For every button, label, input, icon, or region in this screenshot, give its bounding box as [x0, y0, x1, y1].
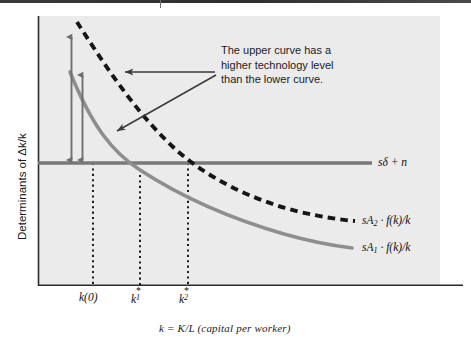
k2-star-sub-stack: *2: [184, 291, 189, 303]
sA1-prefix: sA: [362, 241, 374, 253]
x-tick-label-k1-star: k*1: [131, 291, 141, 306]
annotation-line-3: than the lower curve.: [221, 72, 334, 87]
annotation-line-2: higher technology level: [221, 58, 334, 73]
k1-sub-glyph: 1: [136, 293, 140, 302]
annotation-line-1: The upper curve has a: [221, 43, 334, 58]
x-axis-title: k = K/L (capital per worker): [159, 322, 291, 335]
k2-sub-glyph: 2: [184, 293, 188, 302]
curve-label-sA2: sA2 · f(k)/k: [362, 214, 410, 228]
x-tick-label-k0: k(0): [79, 291, 98, 305]
k1-star-sub-stack: *1: [136, 291, 141, 303]
solow-growth-figure: Determinants of Δk/k k = K/L (capital pe…: [0, 0, 471, 346]
curve-label-sA1: sA1 · f(k)/k: [362, 241, 410, 255]
technology-annotation: The upper curve has a higher technology …: [221, 43, 334, 87]
sA2-rest: · f(k)/k: [378, 214, 411, 226]
sA2-prefix: sA: [362, 214, 374, 226]
y-axis-title: Determinants of Δk/k: [16, 133, 30, 240]
x-tick-label-k2-star: k*2: [179, 291, 189, 306]
sA1-rest: · f(k)/k: [378, 241, 411, 253]
curve-label-sd-plus-n: sδ + n: [378, 156, 407, 170]
